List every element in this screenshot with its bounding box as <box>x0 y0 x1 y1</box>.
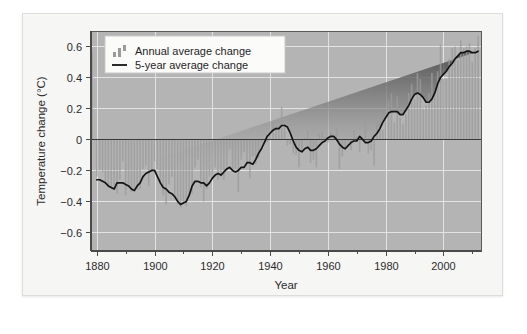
annual-bar <box>168 139 170 184</box>
x-tick-label: 1900 <box>143 260 167 272</box>
figure-root: 0.60.40.20−0.2−0.4−0.6 Temperature chang… <box>0 0 527 334</box>
annual-bar <box>373 139 375 165</box>
annual-bar <box>388 101 390 140</box>
annual-bar <box>99 139 101 170</box>
annual-bar <box>281 107 283 140</box>
annual-bar <box>157 139 159 168</box>
temperature-anomaly-chart: 0.60.40.20−0.2−0.4−0.6 Temperature chang… <box>23 14 502 295</box>
annual-bar <box>420 79 422 139</box>
annual-bar <box>214 139 216 167</box>
annual-bar <box>131 139 133 192</box>
annual-bar <box>226 139 228 170</box>
annual-bar <box>350 139 352 150</box>
annual-bar <box>301 139 303 148</box>
annual-bar <box>136 139 138 189</box>
annual-bar <box>102 139 104 172</box>
annual-bar <box>125 139 127 195</box>
annual-bar <box>240 139 242 159</box>
y-axis: 0.60.40.20−0.2−0.4−0.6 Temperature chang… <box>35 31 91 251</box>
chart-legend: Annual average change 5-year average cha… <box>105 36 285 73</box>
annual-bar <box>290 139 292 144</box>
annual-bar <box>108 139 110 187</box>
annual-bar <box>408 93 410 139</box>
figure-card: 0.60.40.20−0.2−0.4−0.6 Temperature chang… <box>22 13 503 296</box>
annual-bar <box>405 115 407 140</box>
annual-bar <box>472 62 474 139</box>
annual-bar <box>414 99 416 139</box>
annual-bar <box>391 93 393 139</box>
annual-bar <box>113 139 115 185</box>
annual-bar <box>203 139 205 201</box>
annual-bar <box>457 60 459 139</box>
x-tick-label: 1980 <box>374 260 398 272</box>
annual-bar <box>321 132 323 140</box>
annual-bar <box>359 139 361 151</box>
annual-bar <box>145 139 147 165</box>
annual-bar <box>396 96 398 139</box>
annual-bar <box>174 139 176 198</box>
annual-bar <box>209 139 211 176</box>
annual-bar <box>165 139 167 204</box>
annual-bar <box>434 90 436 140</box>
annual-bar <box>183 139 185 203</box>
annual-bar <box>353 130 355 139</box>
annual-bar <box>448 59 450 140</box>
annual-bar <box>365 119 367 139</box>
annual-bar <box>128 139 130 185</box>
annual-bar <box>466 46 468 139</box>
annual-bar <box>307 130 309 139</box>
annual-bar <box>463 48 465 139</box>
x-tick-label: 1940 <box>258 260 282 272</box>
y-axis-title: Temperature change (°C) <box>35 76 47 205</box>
annual-bar <box>134 139 136 190</box>
annual-bar <box>394 122 396 139</box>
legend-label-annual: Annual average change <box>135 45 251 57</box>
annual-bar <box>186 139 188 206</box>
annual-bar <box>440 45 442 140</box>
annual-bar <box>122 139 124 161</box>
annual-bar <box>469 43 471 139</box>
annual-bar <box>318 133 320 139</box>
y-tick-label: 0.6 <box>67 41 82 53</box>
annual-bar <box>119 139 121 179</box>
annual-bar <box>142 139 144 168</box>
annual-bar <box>425 105 427 139</box>
annual-bar <box>105 139 107 181</box>
legend-label-five-year: 5-year average change <box>135 59 248 71</box>
annual-bar <box>220 139 222 176</box>
y-tick-label: −0.4 <box>60 196 82 208</box>
annual-bar <box>148 139 150 185</box>
annual-bar <box>235 139 237 168</box>
annual-bar <box>110 139 112 189</box>
annual-bar <box>188 139 190 196</box>
annual-bar <box>197 139 199 159</box>
annual-bar <box>229 139 231 148</box>
annual-bar <box>399 118 401 140</box>
x-tick-label: 1960 <box>316 260 340 272</box>
annual-bar <box>324 136 326 139</box>
annual-bar <box>474 48 476 139</box>
annual-bar <box>431 73 433 140</box>
x-tick-label: 1880 <box>85 260 109 272</box>
y-tick-label: −0.2 <box>60 165 82 177</box>
annual-bar <box>382 130 384 139</box>
annual-bar <box>287 139 289 145</box>
annual-bar <box>177 139 179 204</box>
annual-bar <box>402 124 404 139</box>
annual-bar <box>246 139 248 164</box>
annual-bar <box>428 93 430 139</box>
annual-bar <box>160 139 162 182</box>
y-tick-label: 0 <box>76 134 82 146</box>
annual-bar <box>316 139 318 167</box>
annual-bar <box>212 139 214 176</box>
annual-bar <box>422 108 424 139</box>
y-tick-label: 0.2 <box>67 103 82 115</box>
annual-bar <box>417 73 419 140</box>
annual-bar <box>151 139 153 172</box>
annual-bar <box>252 139 254 156</box>
annual-bar <box>443 79 445 139</box>
x-tick-label: 1920 <box>200 260 224 272</box>
x-tick-label: 2000 <box>431 260 455 272</box>
x-axis: 1880190019201940196019802000 Year <box>85 251 481 291</box>
annual-bar <box>298 139 300 167</box>
